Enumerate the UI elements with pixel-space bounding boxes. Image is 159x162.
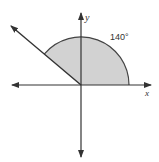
angle-sector — [44, 37, 129, 85]
angle-label: 140° — [110, 32, 129, 42]
angle-diagram: y x 140° — [0, 0, 159, 162]
x-axis-label: x — [144, 88, 149, 98]
y-axis-label: y — [84, 12, 90, 23]
